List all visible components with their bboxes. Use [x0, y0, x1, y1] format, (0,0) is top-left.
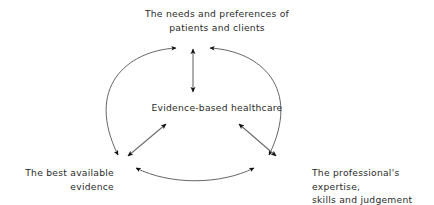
connector-center-to-bottom-right: [239, 124, 276, 156]
connector-arc-bottom-left-to-bottom-right: [136, 168, 254, 181]
node-label-needs-and-preferences: The needs and preferences of patients an…: [110, 7, 324, 34]
connector-center-to-bottom-left: [128, 124, 166, 156]
node-label-evidence-based-healthcare: Evidence-based healthcare: [122, 101, 312, 115]
node-label-best-available-evidence: The best available evidence: [4, 166, 114, 193]
diagram-canvas: The needs and preferences of patients an…: [0, 0, 434, 205]
node-label-professional-expertise: The professional's expertise, skills and…: [312, 166, 434, 205]
